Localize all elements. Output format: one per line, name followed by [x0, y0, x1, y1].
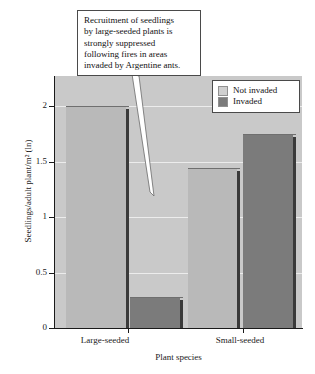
y-axis-title: Seedlings/adult plant/m² (ln) [23, 91, 33, 291]
x-tick-label-small-seeded: Small-seeded [185, 336, 295, 345]
y-tick-label-0: 0 [7, 323, 47, 332]
y-tick-mark-1.5 [49, 162, 55, 163]
bar-chart-figure: 2 1.5 1 0.5 0 Large-seeded Small-seeded … [0, 0, 315, 374]
annotation-line-4: following fires in areas [84, 49, 195, 60]
annotation-text: Recruitment of seedlings by large-seeded… [84, 15, 195, 71]
annotation-callout: Recruitment of seedlings by large-seeded… [77, 10, 201, 76]
y-tick-mark-2 [49, 106, 55, 107]
bar-side-shadow [237, 171, 240, 328]
x-tick-mark-small-seeded [243, 329, 244, 333]
x-axis-line [54, 328, 303, 329]
bar-face [130, 297, 180, 328]
annotation-line-2: by large-seeded plants is [84, 26, 195, 37]
bar-face [66, 106, 126, 328]
legend-item-label: Not invaded [233, 86, 277, 96]
annotation-leader-line [120, 74, 166, 198]
y-tick-mark-1 [49, 217, 55, 218]
legend-item-label: Invaded [233, 97, 262, 107]
legend: Not invaded Invaded [212, 80, 300, 113]
legend-item-invaded[interactable]: Invaded [218, 97, 295, 107]
annotation-line-5: invaded by Argentine ants. [84, 60, 195, 71]
bar-side-shadow [180, 300, 183, 328]
legend-swatch-icon [218, 97, 228, 107]
x-axis-title: Plant species [55, 352, 302, 362]
y-tick-mark-0.5 [49, 273, 55, 274]
bar-small-seeded-not-invaded[interactable] [188, 168, 240, 328]
x-tick-mark-large-seeded [128, 329, 129, 333]
bar-top-edge [130, 297, 183, 298]
y-axis-line [54, 76, 55, 329]
bar-large-seeded-invaded[interactable] [130, 297, 183, 328]
plot-area [55, 76, 302, 328]
bar-top-edge [243, 134, 296, 135]
bar-side-shadow [293, 137, 296, 328]
y-tick-mark-0 [49, 328, 55, 329]
bar-top-edge [188, 168, 240, 169]
annotation-line-1: Recruitment of seedlings [84, 15, 195, 26]
legend-swatch-icon [218, 86, 228, 96]
bar-face [188, 168, 237, 328]
bar-face [243, 134, 293, 328]
bar-small-seeded-invaded[interactable] [243, 134, 296, 328]
legend-item-not-invaded[interactable]: Not invaded [218, 86, 295, 96]
annotation-line-3: strongly suppressed [84, 38, 195, 49]
x-tick-label-large-seeded: Large-seeded [50, 336, 160, 345]
